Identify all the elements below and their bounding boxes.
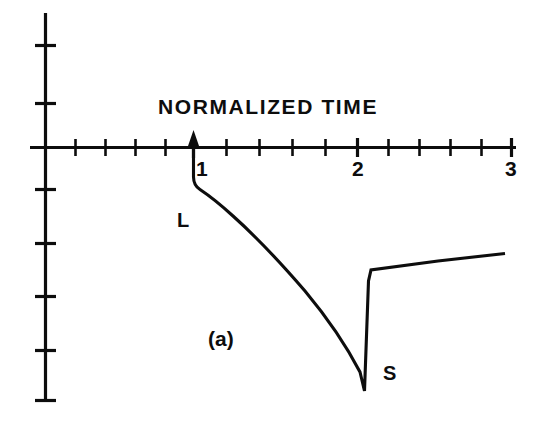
up-caret-icon [188, 130, 199, 146]
chart-canvas [0, 0, 539, 426]
x-tick-label-3: 3 [505, 158, 517, 179]
figure-panel-a: NORMALIZED TIME 1 2 3 L S (a) [0, 0, 539, 426]
annotation-solid-label: S [383, 363, 396, 383]
cooling-curve-path [194, 147, 506, 391]
annotation-liquid-label: L [177, 210, 189, 230]
x-tick-label-1: 1 [196, 158, 208, 179]
panel-label: (a) [208, 328, 234, 349]
chart-title: NORMALIZED TIME [158, 96, 378, 117]
x-tick-label-2: 2 [352, 158, 364, 179]
